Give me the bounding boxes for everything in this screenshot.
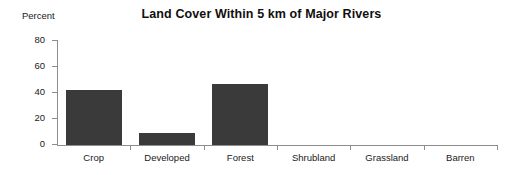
bar [139, 133, 195, 145]
x-axis-label-shrubland: Shrubland [292, 151, 335, 164]
x-axis-tick [130, 145, 131, 150]
x-axis-label-grassland: Grassland [365, 151, 408, 164]
x-axis-label-forest: Forest [227, 151, 254, 164]
y-axis-tick: 80 [52, 40, 57, 41]
x-axis-label-developed: Developed [144, 151, 189, 164]
bar [212, 84, 268, 145]
y-axis-tick: 20 [52, 118, 57, 119]
x-axis-label-crop: Crop [83, 151, 104, 164]
y-axis-tick: 0 [52, 144, 57, 145]
y-axis-tick-label: 80 [34, 33, 45, 46]
x-axis-label-barren: Barren [446, 151, 475, 164]
x-axis-tick [204, 145, 205, 150]
y-axis-tick-label: 60 [34, 59, 45, 72]
bar-chart: Land Cover Within 5 km of Major Rivers P… [0, 0, 523, 175]
plot-area: 020406080 [57, 41, 497, 145]
y-axis-tick-label: 20 [34, 111, 45, 124]
y-axis-tick-label: 40 [34, 85, 45, 98]
y-axis-tick-label: 0 [40, 137, 45, 150]
x-axis-tick [424, 145, 425, 150]
y-axis-tick: 60 [52, 66, 57, 67]
bar [66, 90, 122, 145]
x-axis-tick [497, 145, 498, 150]
chart-title: Land Cover Within 5 km of Major Rivers [0, 7, 523, 21]
x-axis-tick [350, 145, 351, 150]
y-axis-label: Percent [22, 10, 55, 21]
x-axis-tick [277, 145, 278, 150]
y-axis-tick: 40 [52, 92, 57, 93]
